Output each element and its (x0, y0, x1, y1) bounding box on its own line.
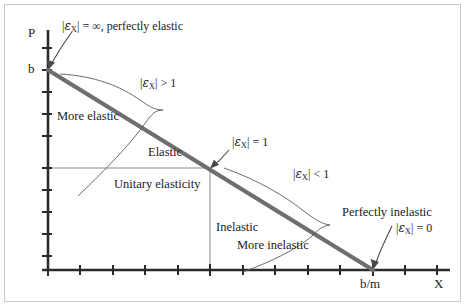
arrow-unitary-elasticity (210, 150, 229, 169)
y-intercept-value: b (28, 62, 35, 75)
annotation-perfectly-elastic: |εX| = ∞, perfectly elastic (62, 20, 183, 32)
epsilon-subscript: X (241, 140, 247, 150)
epsilon-symbol: ε (64, 19, 70, 33)
annotation-perfectly-inelastic-eq0: |εX| = 0 (396, 222, 432, 234)
epsilon-subscript: X (302, 172, 308, 182)
label-elastic: Elastic (148, 146, 182, 159)
label-more-elastic: More elastic (57, 110, 119, 123)
epsilon-symbol: ε (398, 221, 404, 235)
x-axis-label: X (434, 277, 443, 290)
epsilon-subscript: X (149, 81, 155, 91)
epsilon-symbol: ε (234, 135, 240, 149)
annotation-inelastic-lt1: |εX| < 1 (293, 168, 329, 180)
annotation-elastic-gt1: |εX| > 1 (140, 77, 176, 89)
epsilon-symbol: ε (142, 76, 148, 90)
epsilon-relation: = 0 (416, 221, 432, 235)
epsilon-subscript: X (71, 24, 77, 34)
epsilon-relation: = ∞, perfectly elastic (82, 19, 183, 33)
plot-canvas (0, 0, 467, 308)
epsilon-relation: = 1 (252, 135, 268, 149)
epsilon-subscript: X (405, 226, 411, 236)
x-axis (42, 264, 450, 276)
label-inelastic: Inelastic (216, 221, 258, 234)
y-axis-label: P (28, 26, 35, 39)
arrow-perfectly-elastic (47, 32, 73, 69)
elasticity-figure: P X b b/m |εX| = ∞, perfectly elastic |ε… (0, 0, 467, 308)
label-perfectly-inelastic: Perfectly inelastic (342, 206, 432, 219)
epsilon-relation: > 1 (160, 76, 176, 90)
annotation-unitary-eq1: |εX| = 1 (232, 136, 268, 148)
arrow-perfectly-inelastic (371, 226, 393, 269)
label-unitary-elasticity: Unitary elasticity (114, 178, 200, 191)
epsilon-symbol: ε (295, 167, 301, 181)
epsilon-relation: < 1 (313, 167, 329, 181)
label-more-inelastic: More inelastic (237, 239, 309, 252)
x-intercept-value: b/m (360, 277, 380, 290)
